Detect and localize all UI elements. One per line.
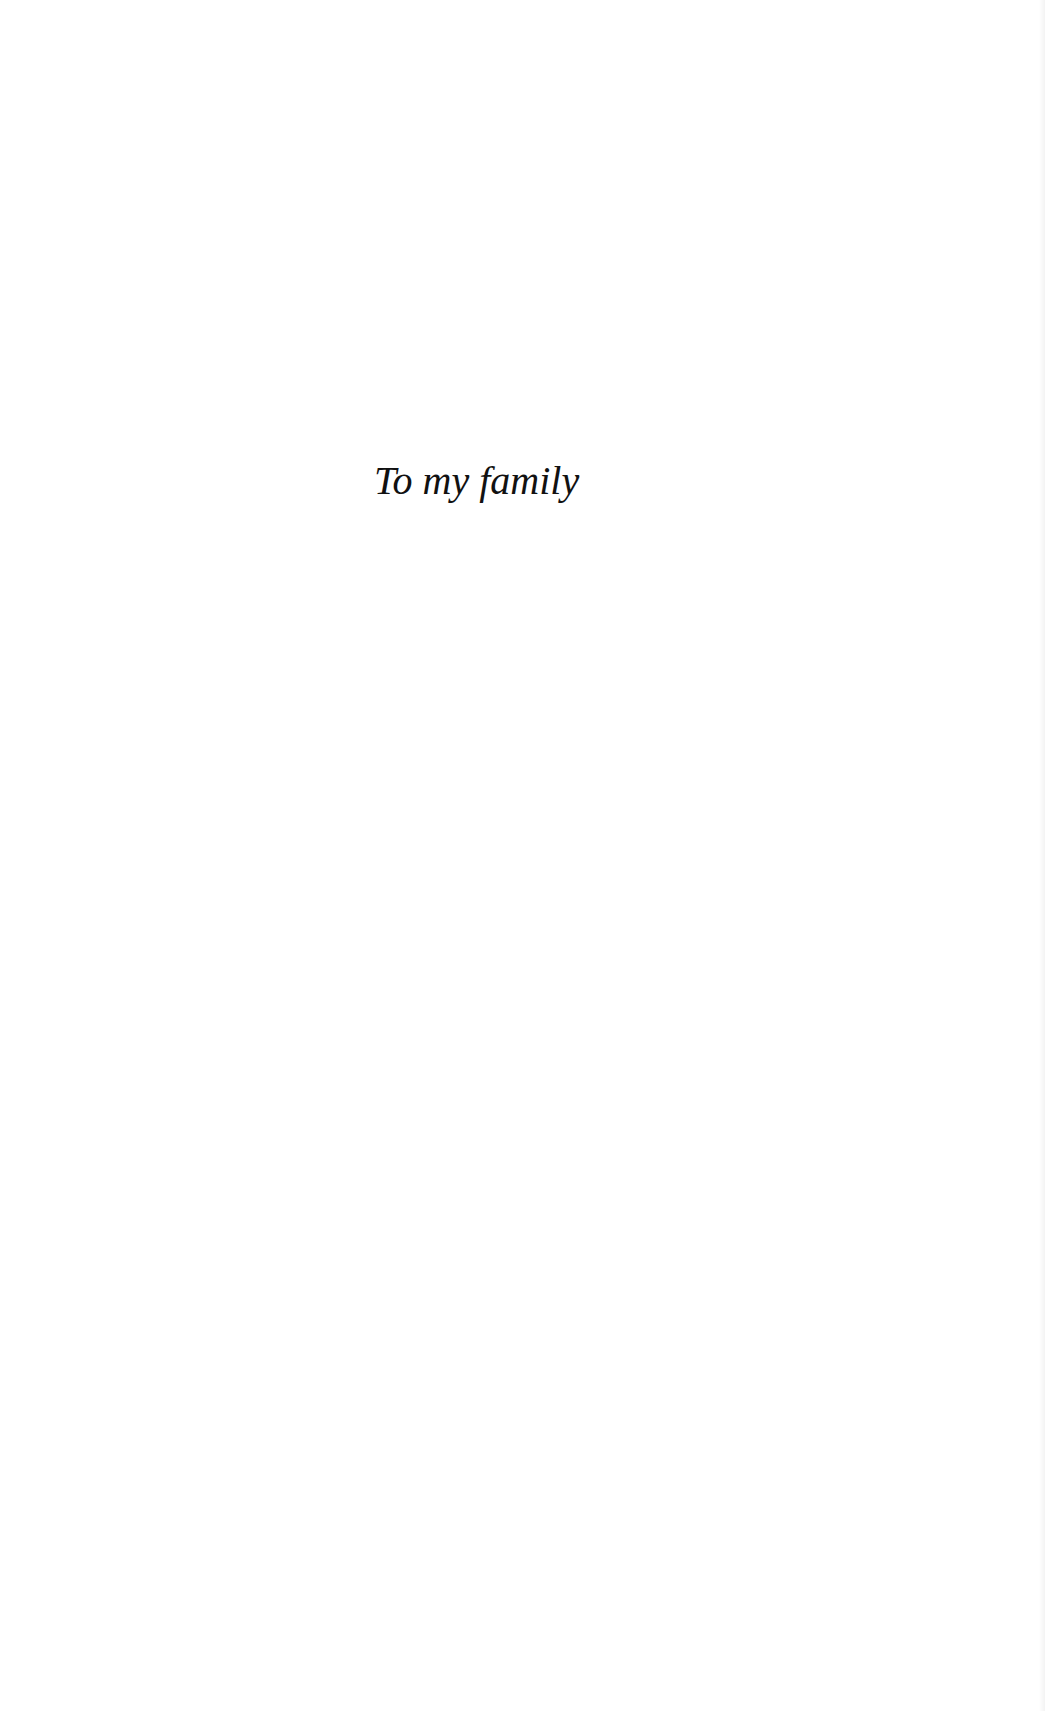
page-edge-shadow	[1039, 0, 1045, 1711]
dedication-text: To my family	[374, 454, 579, 508]
book-page: To my family	[0, 0, 1045, 1711]
